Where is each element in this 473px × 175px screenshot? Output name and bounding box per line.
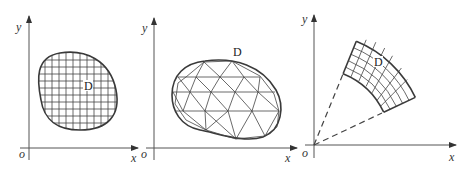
polar-grid-lines — [343, 40, 415, 112]
ray-upper — [314, 74, 343, 145]
panel-rectangular-grid: y o x D — [15, 16, 138, 165]
y-axis-label: y — [301, 12, 308, 26]
region-boundary — [172, 60, 281, 139]
region-label: D — [84, 79, 93, 93]
origin-label: o — [302, 146, 308, 160]
y-axis-label: y — [141, 21, 148, 35]
x-axis-label: x — [130, 151, 137, 165]
x-axis-label: x — [448, 150, 455, 164]
ray-lower — [314, 113, 382, 145]
figure: y o x D — [0, 0, 473, 175]
panel-triangular-mesh: y o x — [141, 18, 297, 165]
region-boundary — [39, 52, 117, 130]
triangular-mesh-lines — [173, 61, 279, 139]
origin-label: o — [141, 147, 147, 161]
panel-polar-grid: y o x D — [301, 12, 456, 164]
origin-label: o — [19, 147, 25, 161]
rectangular-grid-lines — [30, 40, 125, 140]
y-axis-label: y — [15, 20, 22, 34]
region-label: D — [233, 45, 242, 59]
x-axis-label: x — [284, 151, 291, 165]
region-label: D — [374, 55, 383, 69]
